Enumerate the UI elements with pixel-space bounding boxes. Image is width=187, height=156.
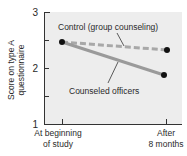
x-label-start-line1: At beginning bbox=[34, 128, 82, 138]
data-point-control-end bbox=[164, 47, 170, 53]
y-tick-label-2: 2 bbox=[32, 63, 38, 74]
x-label-end-line2: 8 months bbox=[149, 139, 184, 149]
x-label-end-line1: After bbox=[157, 128, 175, 138]
y-axis-title-line1: Score on type A bbox=[6, 40, 16, 100]
x-label-start-line2: of study bbox=[43, 139, 74, 149]
chart: 3 2 1 Score on type A questionnaire At b… bbox=[0, 0, 187, 156]
data-point-start bbox=[59, 39, 65, 45]
y-tick-label-3: 3 bbox=[32, 7, 38, 18]
y-axis-title-line2: questionnaire bbox=[16, 44, 26, 95]
annotation-control: Control (group counseling) bbox=[58, 22, 158, 32]
y-axis-title: Score on type A questionnaire bbox=[6, 40, 26, 100]
data-point-counseled-end bbox=[161, 72, 167, 78]
annotation-counseled: Counseled officers bbox=[69, 86, 139, 96]
